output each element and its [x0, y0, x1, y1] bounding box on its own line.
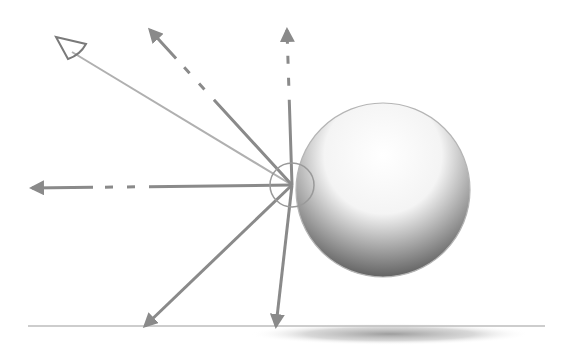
reflected-up-left-arrow — [150, 30, 292, 185]
view-ray-arrow — [72, 52, 292, 185]
scattered-down-left-arrow — [145, 185, 292, 326]
sphere — [296, 103, 470, 277]
eye-icon — [56, 37, 86, 59]
scattering-diagram — [0, 0, 569, 364]
light-rays — [32, 30, 292, 326]
reflected-up-arrow — [287, 30, 292, 185]
reflected-left-arrow — [32, 185, 292, 188]
